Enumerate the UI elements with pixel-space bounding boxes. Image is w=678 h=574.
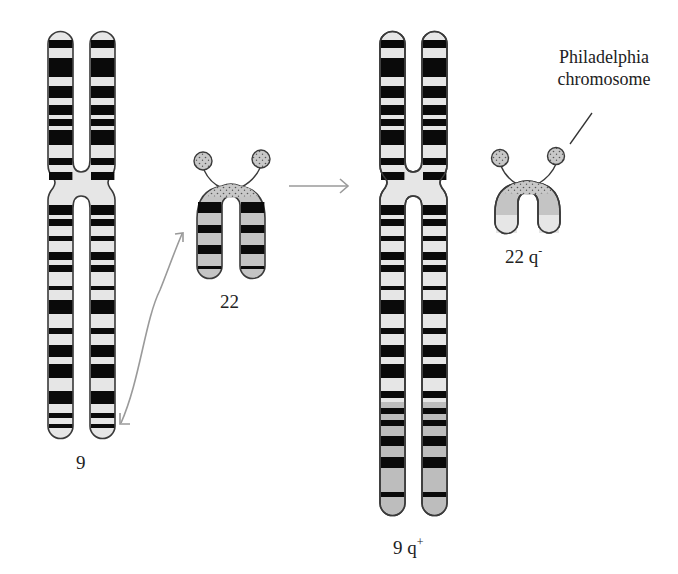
chromosome-9q-plus (380, 32, 447, 516)
dark-band (49, 424, 72, 428)
dark-band (423, 328, 446, 334)
dark-band (91, 130, 114, 145)
dark-band (423, 119, 446, 126)
dark-band (91, 364, 114, 378)
dark-band (91, 413, 114, 418)
chromosome-9 (48, 32, 115, 439)
dark-band (381, 345, 404, 357)
dark-band (49, 219, 72, 226)
dark-band (49, 105, 72, 115)
dark-band (381, 58, 404, 77)
dark-band (381, 172, 404, 180)
dark-band (423, 436, 446, 446)
dark-band (241, 266, 264, 269)
dark-band (49, 300, 72, 314)
chromosome-22-stalk-right (240, 168, 260, 188)
dark-band (381, 300, 404, 314)
philadelphia-label-line1: Philadelphia (538, 46, 670, 68)
dark-band (423, 408, 446, 414)
dark-band (91, 105, 114, 115)
dark-band (381, 420, 404, 426)
chromosome-22-stalk-left (204, 170, 222, 188)
dark-band (91, 40, 114, 48)
dark-band (49, 252, 72, 260)
dark-band (241, 245, 264, 254)
dark-band (423, 391, 446, 398)
dark-band (423, 58, 446, 77)
dark-band (423, 345, 446, 357)
dark-band (49, 158, 72, 165)
dark-band (91, 345, 114, 357)
chromosome-22q-minus-stalk-left (501, 166, 517, 184)
dark-band (423, 105, 446, 115)
dark-band (49, 130, 72, 145)
dark-band (91, 119, 114, 126)
dark-band (49, 58, 72, 77)
dark-band (381, 130, 404, 145)
chromosome-9q-plus-label-sup: + (417, 535, 424, 549)
dark-band (49, 40, 72, 48)
dark-band (91, 424, 114, 428)
dark-band (91, 219, 114, 226)
dark-band (381, 492, 404, 497)
dark-band (91, 328, 114, 334)
dark-band (423, 40, 446, 48)
philadelphia-pointer-line (570, 113, 592, 144)
dark-band (423, 158, 446, 165)
dark-band (423, 286, 446, 290)
dark-band (198, 245, 221, 254)
dark-band (241, 202, 264, 213)
dark-band (381, 436, 404, 446)
dark-band (49, 391, 72, 404)
dark-band (91, 86, 114, 98)
dark-band (91, 300, 114, 314)
chromosome-9q-plus-label-base: 9 q (393, 537, 417, 558)
dark-band (381, 119, 404, 126)
dark-band (91, 391, 114, 404)
dark-band (381, 158, 404, 165)
philadelphia-chromosome-label: Philadelphia chromosome (538, 46, 670, 90)
dark-band (49, 286, 72, 290)
dark-band (423, 300, 446, 314)
dark-band (241, 225, 264, 233)
translocation-arrow (289, 179, 348, 193)
dark-band (198, 225, 221, 233)
dark-band (423, 252, 446, 260)
dark-band (381, 391, 404, 398)
dark-band (381, 364, 404, 378)
dark-band (381, 328, 404, 334)
dark-band (198, 266, 221, 269)
dark-band (49, 205, 72, 215)
dark-band (49, 236, 72, 241)
dark-band (381, 105, 404, 115)
dark-band (91, 58, 114, 77)
chromosome-22-satellite-left (194, 152, 212, 170)
dark-band (91, 252, 114, 260)
dark-band (381, 219, 404, 226)
dark-band (381, 40, 404, 48)
chromosome-22-label: 22 (220, 292, 239, 311)
dark-band (49, 86, 72, 98)
dark-band (91, 265, 114, 272)
dark-band (381, 408, 404, 414)
dark-band (423, 236, 446, 241)
exchange-arrow-path (121, 234, 182, 423)
chromosome-22q-minus-satellite-right (548, 148, 565, 165)
dark-band (91, 172, 114, 180)
dark-band (49, 328, 72, 334)
dark-band (49, 364, 72, 378)
dark-band (49, 119, 72, 126)
dark-band (49, 345, 72, 357)
dark-band (423, 492, 446, 497)
dark-band (381, 86, 404, 98)
dark-band (49, 413, 72, 418)
dark-band (381, 286, 404, 290)
dark-band (381, 236, 404, 241)
dark-band (91, 236, 114, 241)
dark-band (49, 172, 72, 180)
chromosome-22q-minus-satellite-left (492, 150, 509, 167)
dark-band (423, 420, 446, 426)
dark-band (423, 86, 446, 98)
dark-band (91, 286, 114, 290)
dark-band (423, 364, 446, 378)
